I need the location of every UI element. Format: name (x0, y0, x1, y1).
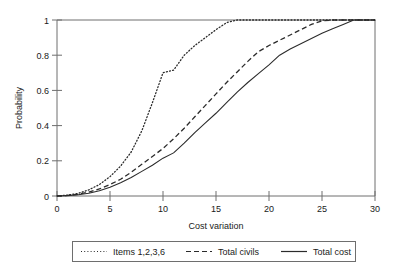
y-tick-label: 1 (44, 16, 49, 26)
x-tick-label: 30 (370, 204, 380, 214)
legend-label-total-civils: Total civils (218, 247, 260, 257)
y-tick-label: 0.4 (36, 121, 49, 131)
x-tick-label: 0 (54, 204, 59, 214)
x-tick-label: 25 (317, 204, 327, 214)
cdf-chart: 0 0.2 0.4 0.6 0.8 1 0 5 10 15 20 25 30 C… (0, 0, 399, 268)
y-tick-label: 0.8 (36, 51, 49, 61)
y-tick-label: 0.2 (36, 156, 49, 166)
x-axis-title: Cost variation (188, 221, 243, 231)
x-tick-label: 5 (107, 204, 112, 214)
y-tick-label: 0.6 (36, 86, 49, 96)
legend-label-items: Items 1,2,3,6 (113, 247, 165, 257)
legend-label-total-cost: Total cost (313, 247, 352, 257)
y-axis-title: Probability (14, 86, 24, 129)
x-tick-label: 20 (264, 204, 274, 214)
x-tick-label: 15 (211, 204, 221, 214)
y-tick-label: 0 (44, 192, 49, 202)
chart-legend: Items 1,2,3,6 Total civils Total cost (73, 242, 356, 262)
x-tick-label: 10 (158, 204, 168, 214)
